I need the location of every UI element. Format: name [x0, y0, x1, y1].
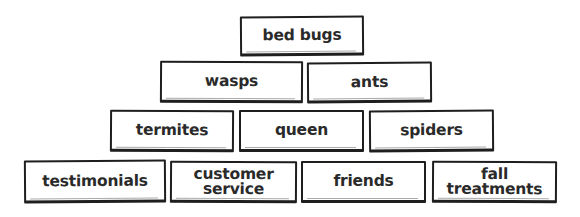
box-label: spiders	[400, 123, 463, 138]
box-label: termites	[136, 123, 209, 138]
box-label: wasps	[205, 74, 258, 89]
box-fall-treatments: fall treatments	[432, 161, 557, 204]
box-label: ants	[351, 74, 388, 89]
box-label-line2: service	[203, 181, 264, 196]
box-queen: queen	[239, 110, 364, 152]
box-testimonials: testimonials	[24, 160, 166, 204]
box-termites: termites	[110, 110, 234, 153]
box-customer-service: customer service	[170, 161, 297, 204]
box-label: bed bugs	[262, 28, 341, 44]
box-wasps: wasps	[160, 61, 303, 104]
box-ants: ants	[307, 62, 432, 104]
box-label-line2: treatments	[447, 181, 543, 197]
box-bed-bugs: bed bugs	[240, 16, 364, 57]
box-spiders: spiders	[369, 110, 494, 153]
box-friends: friends	[301, 161, 426, 203]
box-label: testimonials	[42, 173, 148, 189]
box-label: queen	[275, 123, 328, 138]
box-label: friends	[333, 174, 393, 189]
